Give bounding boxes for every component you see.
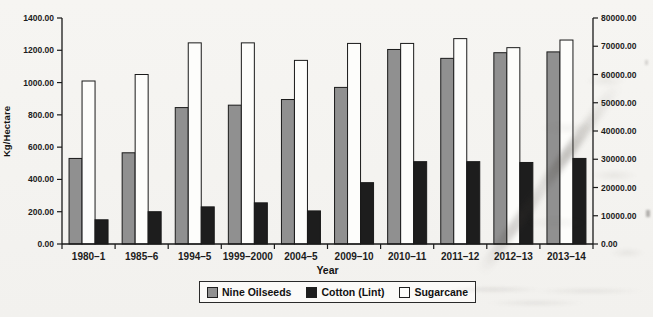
legend-swatch-nine-oilseeds xyxy=(207,287,218,298)
x-category-label: 2013–14 xyxy=(547,251,586,262)
bar-nine-oilseeds-0 xyxy=(69,158,82,244)
bar-nine-oilseeds-1 xyxy=(122,153,135,244)
x-category-label: 2012–13 xyxy=(494,251,533,262)
bar-sugarcane-3 xyxy=(241,43,254,244)
bar-nine-oilseeds-2 xyxy=(175,108,188,244)
x-category-label: 1985–6 xyxy=(125,251,159,262)
y-left-tick-label: 200.00 xyxy=(28,207,54,217)
y-right-tick-label: 80000.00 xyxy=(601,13,637,23)
y-left-tick-label: 1200.00 xyxy=(23,45,54,55)
bar-cotton-lint-4 xyxy=(307,211,320,244)
bar-sugarcane-1 xyxy=(135,75,148,245)
bar-cotton-lint-8 xyxy=(520,162,533,244)
bar-sugarcane-7 xyxy=(454,39,467,244)
bar-nine-oilseeds-3 xyxy=(228,105,241,244)
bar-nine-oilseeds-7 xyxy=(441,58,454,244)
x-category-label: 2004–5 xyxy=(284,251,318,262)
y-left-tick-label: 400.00 xyxy=(28,174,54,184)
x-category-label: 1980–1 xyxy=(72,251,106,262)
bar-cotton-lint-9 xyxy=(573,158,586,244)
legend: Nine Oilseeds Cotton (Lint) Sugarcane xyxy=(199,281,476,303)
bar-cotton-lint-1 xyxy=(148,212,161,244)
y-left-tick-label: 0.00 xyxy=(37,239,54,249)
y-left-tick-label: 1400.00 xyxy=(23,13,54,23)
legend-swatch-cotton-lint xyxy=(306,287,317,298)
bar-sugarcane-4 xyxy=(294,60,307,244)
legend-item-sugarcane: Sugarcane xyxy=(399,286,468,298)
bar-sugarcane-8 xyxy=(507,48,520,244)
bar-nine-oilseeds-5 xyxy=(335,87,348,244)
bar-cotton-lint-7 xyxy=(467,162,480,244)
y-right-tick-label: 50000.00 xyxy=(601,98,637,108)
bar-sugarcane-9 xyxy=(560,40,573,244)
legend-item-nine-oilseeds: Nine Oilseeds xyxy=(207,286,291,298)
bar-nine-oilseeds-9 xyxy=(547,52,560,244)
legend-label-sugarcane: Sugarcane xyxy=(414,286,468,298)
y-right-tick-label: 0.00 xyxy=(601,239,618,249)
x-axis-title: Year xyxy=(260,264,395,276)
x-category-label: 2011–12 xyxy=(441,251,480,262)
bar-sugarcane-2 xyxy=(188,43,201,244)
y-right-tick-label: 20000.00 xyxy=(601,183,637,193)
y-right-tick-label: 60000.00 xyxy=(601,70,637,80)
y-left-tick-label: 1000.00 xyxy=(23,78,54,88)
x-category-label: 2010–11 xyxy=(388,251,427,262)
bar-cotton-lint-2 xyxy=(201,207,214,244)
y-left-tick-label: 800.00 xyxy=(28,110,54,120)
y-axis-title-left: Kg/Hectare xyxy=(1,102,12,162)
legend-label-cotton-lint: Cotton (Lint) xyxy=(321,286,384,298)
bar-sugarcane-6 xyxy=(401,43,414,244)
bar-cotton-lint-3 xyxy=(254,203,267,244)
x-category-label: 2009–10 xyxy=(335,251,374,262)
bar-cotton-lint-5 xyxy=(361,183,374,244)
y-right-tick-label: 30000.00 xyxy=(601,154,637,164)
y-right-tick-label: 70000.00 xyxy=(601,41,637,51)
bar-cotton-lint-0 xyxy=(95,220,108,244)
legend-label-nine-oilseeds: Nine Oilseeds xyxy=(222,286,291,298)
bar-cotton-lint-6 xyxy=(414,162,427,244)
scanned-figure-page: 0.00200.00400.00600.00800.001000.001200.… xyxy=(0,0,653,317)
x-category-label: 1994–5 xyxy=(178,251,212,262)
legend-swatch-sugarcane xyxy=(399,287,410,298)
legend-item-cotton-lint: Cotton (Lint) xyxy=(306,286,384,298)
bar-nine-oilseeds-6 xyxy=(388,49,401,244)
x-category-label: 1999–2000 xyxy=(223,251,273,262)
y-right-tick-label: 10000.00 xyxy=(601,211,637,221)
y-left-tick-label: 600.00 xyxy=(28,142,54,152)
y-right-tick-label: 40000.00 xyxy=(601,126,637,136)
bar-sugarcane-0 xyxy=(82,81,95,244)
bar-sugarcane-5 xyxy=(348,43,361,244)
bar-nine-oilseeds-8 xyxy=(494,53,507,244)
bar-nine-oilseeds-4 xyxy=(281,100,294,244)
